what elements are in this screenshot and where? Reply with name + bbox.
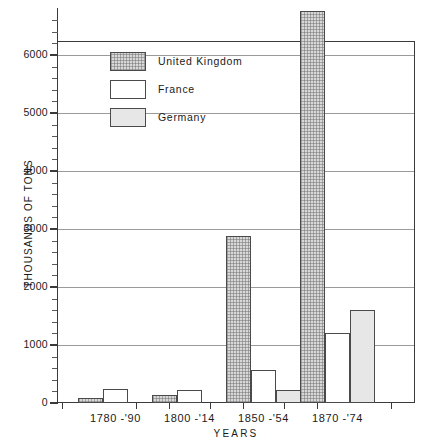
- x-axis-tick: [243, 403, 244, 409]
- y-axis-tick-label: 5000: [0, 106, 48, 118]
- bar: [251, 370, 276, 403]
- bar: [300, 11, 325, 403]
- bar: [276, 390, 301, 403]
- y-axis-tick-label: 1000: [0, 338, 48, 350]
- y-axis-tick-label: 3000: [0, 222, 48, 234]
- y-axis-minor-tick: [52, 32, 58, 33]
- bar: [350, 310, 375, 403]
- y-axis-tick-label: 4000: [0, 164, 48, 176]
- x-axis-tick: [317, 403, 318, 409]
- chart-legend: United KingdomFranceGermany: [110, 50, 270, 134]
- y-axis-spine-extension: [57, 8, 58, 42]
- bar-chart: THOUSANDS OF TONS 0100020003000400050006…: [0, 0, 432, 443]
- legend-label: United Kingdom: [158, 55, 243, 67]
- x-axis-tick: [62, 403, 63, 409]
- legend-swatch: [110, 52, 146, 71]
- x-axis-tick: [210, 403, 211, 409]
- x-axis-title: YEARS: [57, 428, 415, 439]
- x-axis-tick: [136, 403, 137, 409]
- y-axis-tick-label: 6000: [0, 48, 48, 60]
- bar: [103, 389, 128, 403]
- x-axis-tick: [284, 403, 285, 409]
- legend-label: France: [158, 83, 195, 95]
- bar: [226, 236, 251, 403]
- bar: [177, 390, 202, 403]
- y-axis-tick-label: 0: [0, 396, 48, 408]
- bar: [78, 398, 103, 403]
- legend-label: Germany: [158, 111, 206, 123]
- legend-swatch: [110, 80, 146, 99]
- x-axis-tick-label: 1870 -'74: [283, 412, 393, 424]
- bar: [325, 333, 350, 403]
- legend-swatch: [110, 108, 146, 127]
- y-axis-minor-tick: [52, 20, 58, 21]
- legend-item: United Kingdom: [110, 50, 270, 78]
- legend-item: France: [110, 78, 270, 106]
- x-axis-tick: [391, 403, 392, 409]
- y-axis-tick-label: 2000: [0, 280, 48, 292]
- legend-item: Germany: [110, 106, 270, 134]
- x-axis-tick: [169, 403, 170, 409]
- bar: [152, 395, 177, 403]
